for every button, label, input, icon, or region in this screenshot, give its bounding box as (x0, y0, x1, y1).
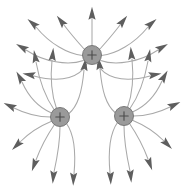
field-line-canvas (0, 0, 184, 192)
charge-bottom-left (51, 108, 70, 127)
electric-field-diagram (0, 0, 184, 192)
charge-top (83, 46, 102, 65)
charge-bottom-right (115, 107, 134, 126)
